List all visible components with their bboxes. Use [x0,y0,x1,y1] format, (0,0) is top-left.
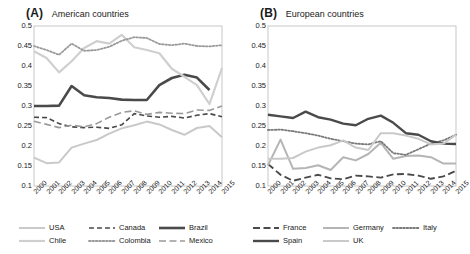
legend-label: Colombia [119,237,151,245]
legend-item-france[interactable]: France [252,224,306,232]
legend-swatch-icon [252,237,280,245]
legend-item-canada[interactable]: Canada [88,224,145,232]
legend-swatch-icon [18,237,46,245]
legend-label: Chile [49,237,66,245]
legend-row: USACanadaBrazil [0,224,234,237]
series-line-usa [34,122,222,164]
legend-item-colombia[interactable]: Colombia [88,237,151,245]
legend-label: Brazil [189,224,208,232]
panel-b-x-axis: 2000200120022003200420052006200720082009… [234,189,468,223]
legend-label: Italy [423,224,437,232]
legend-label: France [283,224,306,232]
legend-swatch-icon [158,224,186,232]
panel-a-svg [0,24,234,189]
legend-label: Spain [283,237,302,245]
legend-row: SpainUK [234,237,468,250]
panel-b-legend: FranceGermanyItalySpainUK [234,224,468,254]
legend-item-uk[interactable]: UK [322,237,363,245]
panel-a-plot-area [0,24,234,189]
panel-a-letter: (A) [26,6,43,20]
legend-item-spain[interactable]: Spain [252,237,302,245]
panel-a-heading: (A) American countries [26,3,129,21]
legend-swatch-icon [158,237,186,245]
legend-label: Mexico [189,237,213,245]
panel-a-x-axis: 2000200120022003200420052006200720082009… [0,189,234,223]
plot-frame [268,26,456,186]
panel-european-countries: (B) European countries 0.10.150.20.250.3… [234,0,468,254]
legend-label: USA [49,224,64,232]
plot-frame [34,26,222,186]
series-line-uk [268,133,456,159]
panel-a-legend: USACanadaBrazilChileColombiaMexico [0,224,234,254]
panel-american-countries: (A) American countries 0.10.150.20.250.3… [0,0,234,254]
legend-label: UK [353,237,363,245]
legend-item-germany[interactable]: Germany [322,224,384,232]
panel-a-title: American countries [52,9,129,19]
legend-label: Germany [353,224,384,232]
panel-b-letter: (B) [260,6,277,20]
legend-item-mexico[interactable]: Mexico [158,237,213,245]
panel-b-svg [234,24,468,189]
panel-b-heading: (B) European countries [260,3,364,21]
legend-row: ChileColombiaMexico [0,237,234,250]
legend-label: Canada [119,224,145,232]
legend-swatch-icon [392,224,420,232]
legend-swatch-icon [88,224,116,232]
legend-swatch-icon [88,237,116,245]
legend-item-brazil[interactable]: Brazil [158,224,208,232]
panel-b-plot-area [234,24,468,189]
legend-swatch-icon [252,224,280,232]
legend-item-chile[interactable]: Chile [18,237,66,245]
series-line-colombia [34,37,222,55]
series-line-brazil [34,75,209,106]
legend-item-usa[interactable]: USA [18,224,64,232]
series-line-mexico [34,106,222,128]
series-line-spain [268,112,456,144]
panel-b-title: European countries [286,9,364,19]
legend-swatch-icon [322,237,350,245]
legend-row: FranceGermanyItaly [234,224,468,237]
legend-swatch-icon [322,224,350,232]
legend-item-italy[interactable]: Italy [392,224,437,232]
legend-swatch-icon [18,224,46,232]
